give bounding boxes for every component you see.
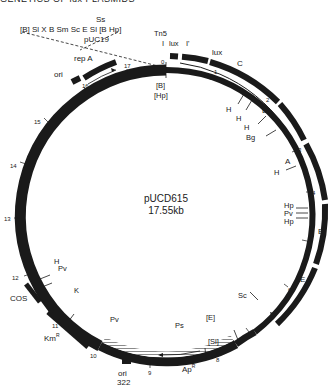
svg-text:14: 14 [10, 163, 17, 169]
cos-label: COS [10, 294, 27, 303]
ori-label: ori [54, 70, 63, 79]
repA-label: rep A [74, 54, 93, 63]
svg-text:Ps: Ps [175, 321, 184, 330]
svg-text:8: 8 [216, 357, 220, 363]
svg-text:Bg: Bg [246, 133, 255, 142]
svg-text:9: 9 [148, 370, 152, 376]
apR-label: ApR [182, 363, 196, 374]
svg-text:Hp: Hp [284, 217, 294, 226]
gene-B: B [318, 227, 323, 236]
ori322-block [122, 358, 131, 364]
svg-text:15: 15 [34, 119, 41, 125]
gene-C: C [237, 59, 243, 68]
svg-text:4: 4 [312, 190, 316, 196]
ori322-label: ori [118, 369, 127, 378]
svg-text:Pv: Pv [58, 264, 67, 273]
scale-tick-labels: 0 1 2 3 4 5 6 7 8 9 10 11 12 13 14 15 16… [4, 59, 316, 376]
svg-text:17: 17 [124, 63, 131, 69]
plasmid-map: 0 1 2 3 4 5 6 7 8 9 10 11 12 13 14 15 16… [0, 0, 336, 389]
polylinker-sites: [B] Sl X B Sm Sc E Sl [B Hp] [20, 25, 121, 34]
svg-text:322: 322 [117, 378, 131, 387]
svg-text:[Hp]: [Hp] [154, 91, 168, 100]
gene-D: D [262, 106, 268, 115]
vector-label: pUC19 [84, 35, 109, 44]
svg-text:H: H [226, 105, 231, 114]
svg-text:Pv: Pv [110, 315, 119, 324]
svg-text:I: I [162, 39, 164, 48]
svg-text:11: 11 [52, 323, 59, 329]
svg-text:16: 16 [82, 83, 89, 89]
svg-text:0: 0 [161, 59, 165, 65]
svg-text:13: 13 [4, 216, 11, 222]
svg-text:H: H [244, 123, 249, 132]
svg-text:12: 12 [12, 275, 19, 281]
kmR-label: KmR [44, 332, 60, 343]
svg-text:Sc: Sc [238, 291, 247, 300]
svg-text:[Sl]: [Sl] [208, 337, 219, 346]
lux-label: lux [212, 48, 222, 57]
tn5-label: Tn5 [154, 29, 167, 38]
svg-text:I': I' [186, 39, 190, 48]
polylinker-sites-top: Ss [96, 15, 105, 24]
ori-block [72, 78, 80, 82]
svg-text:H: H [274, 168, 279, 177]
gene-A: A [285, 157, 291, 166]
svg-text:K: K [74, 286, 79, 295]
svg-text:3: 3 [298, 147, 302, 153]
svg-text:[B]: [B] [156, 81, 165, 90]
svg-text:[E]: [E] [206, 313, 215, 322]
svg-text:10: 10 [90, 353, 97, 359]
plasmid-size: 17.55kb [148, 205, 184, 216]
svg-text:lux: lux [169, 39, 179, 48]
svg-text:H: H [236, 114, 241, 123]
svg-text:1: 1 [214, 69, 218, 75]
plasmid-name: pUCD615 [144, 193, 188, 204]
gene-E: E [300, 275, 305, 284]
